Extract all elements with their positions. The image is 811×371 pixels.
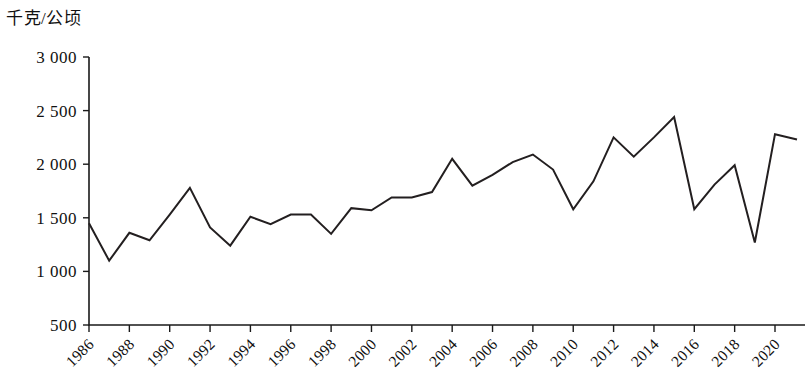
x-tick-label: 1988 [103, 335, 138, 370]
x-tick-label: 1996 [264, 335, 299, 370]
x-tick-label: 2010 [547, 335, 582, 370]
x-tick-label: 2004 [426, 335, 461, 370]
y-axis-tick-labels: 3 0002 5002 0001 5001 000500 [36, 48, 77, 335]
x-tick-label: 2018 [708, 335, 743, 370]
x-tick-label: 2002 [385, 335, 420, 370]
y-tick-label: 3 000 [36, 48, 77, 67]
x-tick-label: 2014 [627, 335, 662, 370]
x-tick-label: 2000 [345, 335, 380, 370]
chart-canvas: 3 0002 5002 0001 5001 000500 19861988199… [0, 0, 811, 371]
y-tick-label: 1 000 [36, 262, 77, 281]
y-tick-label: 1 500 [36, 209, 77, 228]
y-tick-label: 500 [50, 316, 77, 335]
x-tick-label: 2006 [466, 335, 501, 370]
y-axis-tick-marks [83, 57, 89, 325]
x-tick-label: 1990 [143, 335, 178, 370]
x-axis-tick-marks [89, 325, 775, 332]
chart-axes [89, 57, 805, 325]
line-chart: 千克/公顷 3 0002 5002 0001 5001 000500 19861… [0, 0, 811, 371]
x-axis-tick-labels: 1986198819901992199419961998200020022004… [62, 335, 783, 370]
x-tick-label: 1986 [62, 335, 97, 370]
x-tick-label: 2016 [668, 335, 703, 370]
x-tick-label: 2020 [748, 335, 783, 370]
x-tick-label: 2008 [506, 335, 541, 370]
x-tick-label: 1994 [224, 335, 259, 370]
x-tick-label: 1992 [183, 335, 218, 370]
y-tick-label: 2 000 [36, 155, 77, 174]
x-tick-label: 1998 [304, 335, 339, 370]
data-series-line [89, 117, 797, 261]
x-tick-label: 2012 [587, 335, 622, 370]
y-tick-label: 2 500 [36, 102, 77, 121]
